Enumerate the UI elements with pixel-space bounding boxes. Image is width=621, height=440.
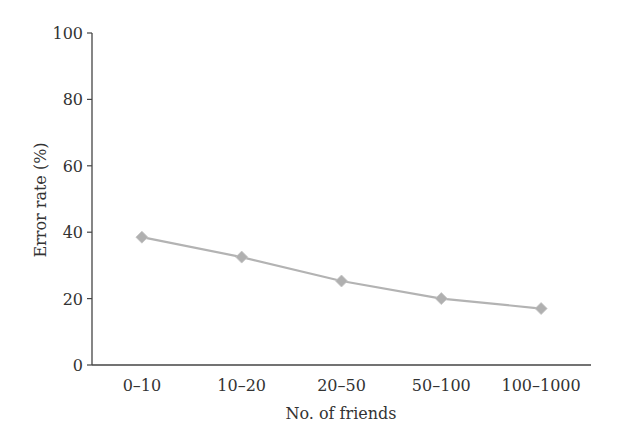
line-chart: 020406080100 0–1010–2020–5050–100100–100… <box>0 0 621 440</box>
diamond-marker-icon <box>136 231 148 243</box>
x-category-label: 50–100 <box>412 376 471 395</box>
diamond-marker-icon <box>535 303 547 315</box>
y-tick-label: 100 <box>52 24 83 43</box>
y-tick-label: 40 <box>63 223 83 242</box>
y-axis-title: Error rate (%) <box>31 142 50 257</box>
y-axis: 020406080100 <box>52 24 92 375</box>
series-line <box>142 237 541 308</box>
y-tick-label: 60 <box>63 157 83 176</box>
data-series <box>136 231 547 314</box>
diamond-marker-icon <box>336 275 348 287</box>
y-tick-label: 80 <box>63 90 83 109</box>
x-category-label: 0–10 <box>123 376 162 395</box>
y-tick-label: 0 <box>73 356 83 375</box>
x-category-label: 100–1000 <box>501 376 580 395</box>
diamond-marker-icon <box>435 293 447 305</box>
x-category-label: 10–20 <box>217 376 266 395</box>
x-category-label: 20–50 <box>317 376 366 395</box>
diamond-marker-icon <box>236 251 248 263</box>
y-tick-label: 20 <box>63 290 83 309</box>
x-axis: 0–1010–2020–5050–100100–1000 <box>92 365 591 395</box>
x-axis-title: No. of friends <box>285 404 396 423</box>
